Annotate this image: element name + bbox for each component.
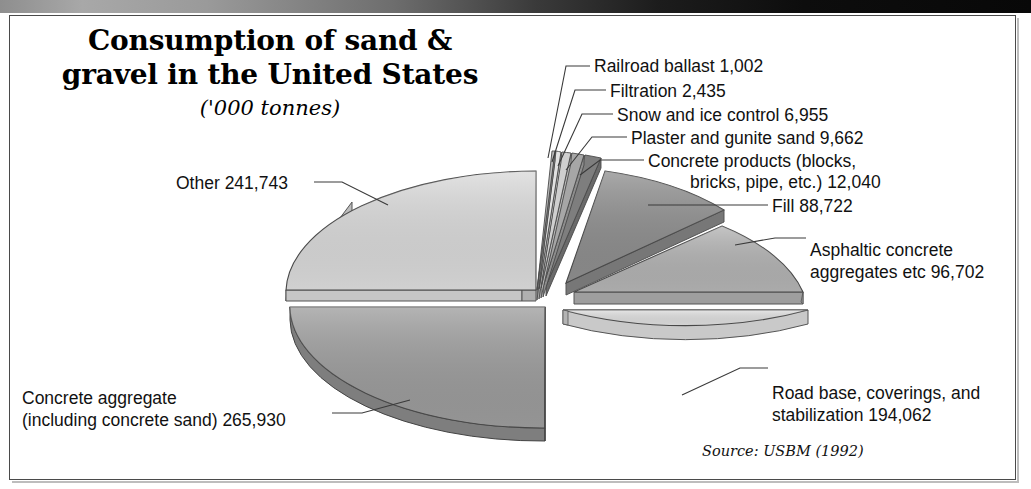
leader-filtration xyxy=(552,90,606,162)
leader-roadbase xyxy=(682,368,768,395)
label-fill: Fill 88,722 xyxy=(772,196,853,217)
pie-slice-concrete-aggregate xyxy=(290,307,545,441)
label-road-base-2: stabilization 194,062 xyxy=(772,405,932,426)
label-filtration: Filtration 2,435 xyxy=(610,81,726,102)
label-concrete-aggregate-2: (including concrete sand) 265,930 xyxy=(22,410,286,431)
leader-railroad xyxy=(548,66,590,158)
label-asphaltic-1: Asphaltic concrete xyxy=(810,240,953,261)
label-concrete-products-1: Concrete products (blocks, xyxy=(648,151,856,172)
label-other: Other 241,743 xyxy=(176,173,288,194)
label-road-base-1: Road base, coverings, and xyxy=(772,383,980,404)
label-railroad-ballast: Railroad ballast 1,002 xyxy=(594,56,763,77)
pie-slice-road-base xyxy=(563,310,808,340)
label-plaster-gunite-sand: Plaster and gunite sand 9,662 xyxy=(631,128,864,149)
source-attribution: Source: USBM (1992) xyxy=(702,443,864,459)
label-snow-ice-control: Snow and ice control 6,955 xyxy=(617,105,828,126)
pie-slice-other xyxy=(286,171,536,301)
label-concrete-aggregate-1: Concrete aggregate xyxy=(22,388,177,409)
label-concrete-products-2: bricks, pipe, etc.) 12,040 xyxy=(690,172,881,193)
label-asphaltic-2: aggregates etc 96,702 xyxy=(810,262,984,283)
